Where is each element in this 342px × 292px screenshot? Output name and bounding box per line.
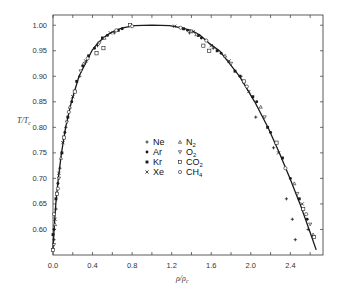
open-square-marker-icon xyxy=(242,80,245,83)
triangle-down-marker-icon xyxy=(98,42,101,45)
open-circle-marker-icon xyxy=(52,213,55,216)
filled-circle-marker-icon xyxy=(93,47,96,50)
triangle-down-marker-icon xyxy=(309,223,312,226)
legend-label: Kr xyxy=(153,157,162,167)
filled-circle-marker-icon xyxy=(70,100,73,103)
filled-circle-marker-icon xyxy=(306,218,309,221)
x-tick-label: 0.4 xyxy=(87,261,97,270)
filled-square-marker-icon xyxy=(60,151,63,154)
legend-item-ne: Ne xyxy=(145,137,164,147)
filled-square-marker-icon xyxy=(251,95,254,98)
filled-square-marker-icon xyxy=(298,197,301,200)
open-circle-marker-icon xyxy=(205,39,208,42)
filled-square-marker-icon xyxy=(182,27,185,30)
plot-frame xyxy=(53,15,323,255)
y-tick-label: 0.95 xyxy=(32,46,47,55)
plus-marker-icon xyxy=(291,218,294,221)
legend-item-xe: Xe xyxy=(145,167,164,177)
filled-square-marker-icon xyxy=(146,161,149,164)
filled-circle-marker-icon xyxy=(220,52,223,55)
open-circle-marker-icon xyxy=(67,110,70,113)
filled-circle-marker-icon xyxy=(269,131,272,134)
legend-item-kr: Kr xyxy=(146,157,162,167)
open-square-marker-icon xyxy=(302,207,305,210)
y-axis-label: T/Tc xyxy=(17,116,31,126)
y-tick-label: 0.65 xyxy=(32,199,47,208)
series-n2 xyxy=(53,33,314,236)
open-circle-marker-icon xyxy=(305,213,308,216)
x-tick-label: 0.8 xyxy=(127,261,137,270)
open-square-marker-icon xyxy=(73,90,76,93)
series-ar xyxy=(53,27,309,231)
y-tick-label: 0.70 xyxy=(32,174,47,183)
filled-circle-marker-icon xyxy=(289,177,292,180)
filled-square-marker-icon xyxy=(52,233,55,236)
triangle-down-marker-icon xyxy=(79,70,82,73)
legend-item-ch4: CH4 xyxy=(178,167,203,178)
open-square-marker-icon xyxy=(95,52,98,55)
x-axis-label: ρ/ρc xyxy=(175,274,189,284)
coexistence-curve xyxy=(53,25,316,250)
open-circle-marker-icon xyxy=(178,170,181,173)
cross-marker-icon xyxy=(301,202,304,205)
filled-square-marker-icon xyxy=(55,197,58,200)
y-tick-label: 0.60 xyxy=(32,225,47,234)
plus-marker-icon xyxy=(145,140,148,143)
series-ne xyxy=(52,31,309,241)
filled-square-marker-icon xyxy=(75,80,78,83)
filled-circle-marker-icon xyxy=(255,100,258,103)
open-square-marker-icon xyxy=(55,192,58,195)
x-tick-label: 0.0 xyxy=(48,261,58,270)
triangle-up-marker-icon xyxy=(293,182,296,185)
open-circle-marker-icon xyxy=(86,57,89,60)
triangle-up-marker-icon xyxy=(223,54,226,57)
series-co2 xyxy=(51,24,315,252)
filled-circle-marker-icon xyxy=(146,151,149,154)
y-tick-label: 1.00 xyxy=(32,21,47,30)
open-square-marker-icon xyxy=(208,49,211,52)
open-square-marker-icon xyxy=(102,47,105,50)
legend-label: CH4 xyxy=(186,167,203,178)
filled-square-marker-icon xyxy=(216,49,219,52)
legend-label: Ar xyxy=(153,147,162,157)
data-points xyxy=(51,24,315,252)
y-tick-label: 0.85 xyxy=(32,97,47,106)
y-axis-ticks: 1.000.950.900.850.800.750.700.650.60 xyxy=(32,21,323,234)
filled-circle-marker-icon xyxy=(106,34,109,37)
plus-marker-icon xyxy=(285,197,288,200)
open-square-marker-icon xyxy=(62,136,65,139)
y-tick-label: 0.75 xyxy=(32,148,47,157)
open-square-marker-icon xyxy=(202,44,205,47)
filled-circle-marker-icon xyxy=(200,37,203,40)
y-tick-label: 0.90 xyxy=(32,72,47,81)
filled-circle-marker-icon xyxy=(186,29,189,32)
x-tick-label: 2.0 xyxy=(246,261,256,270)
x-tick-label: 1.2 xyxy=(166,261,176,270)
plus-marker-icon xyxy=(272,146,275,149)
open-square-marker-icon xyxy=(178,160,181,163)
open-square-marker-icon xyxy=(51,248,54,251)
open-circle-marker-icon xyxy=(284,167,287,170)
chart: 0.00.40.81.21.62.02.4 1.000.950.900.850.… xyxy=(0,0,342,292)
filled-circle-marker-icon xyxy=(53,228,56,231)
open-circle-marker-icon xyxy=(131,25,134,28)
open-circle-marker-icon xyxy=(245,85,248,88)
fitted-curve xyxy=(53,25,316,250)
triangle-up-marker-icon xyxy=(53,223,56,226)
open-circle-marker-icon xyxy=(56,187,59,190)
x-tick-label: 1.6 xyxy=(206,261,216,270)
triangle-up-marker-icon xyxy=(259,105,262,108)
filled-circle-marker-icon xyxy=(238,75,241,78)
plus-marker-icon xyxy=(294,238,297,241)
filled-circle-marker-icon xyxy=(121,27,124,30)
filled-square-marker-icon xyxy=(234,70,237,73)
filled-circle-marker-icon xyxy=(63,131,66,134)
filled-square-marker-icon xyxy=(281,157,284,160)
triangle-down-marker-icon xyxy=(65,121,68,124)
plus-marker-icon xyxy=(254,116,257,119)
cross-marker-icon xyxy=(145,170,148,173)
open-square-marker-icon xyxy=(275,141,278,144)
legend-item-ar: Ar xyxy=(146,147,162,157)
triangle-up-marker-icon xyxy=(59,156,62,159)
triangle-up-marker-icon xyxy=(178,140,181,143)
